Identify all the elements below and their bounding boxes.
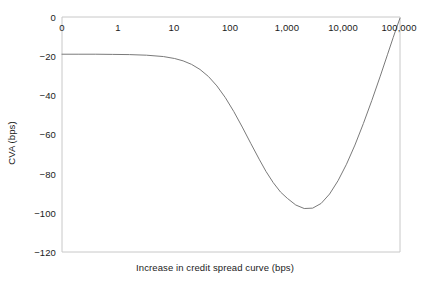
x-tick-label: 1 [115, 22, 120, 33]
x-tick-label: 1,000 [275, 22, 299, 33]
x-tick-label: 100 [222, 22, 238, 33]
y-axis-title: CVA (bps) [6, 108, 17, 178]
x-tick-label: 10,000 [328, 22, 358, 33]
y-tick-label: −100 [22, 208, 56, 219]
y-tick-label: −40 [22, 90, 56, 101]
plot-canvas [0, 0, 430, 283]
plot-frame [62, 17, 400, 252]
y-tick-label: −20 [22, 51, 56, 62]
x-axis-title: Increase in credit spread curve (bps) [0, 262, 430, 273]
x-tick-label: 10 [169, 22, 180, 33]
y-tick-label: −120 [22, 247, 56, 258]
x-tick-label: 100,000 [381, 22, 416, 33]
x-tick-label: 0 [59, 22, 64, 33]
y-tick-label: −80 [22, 169, 56, 180]
y-tick-label: −60 [22, 129, 56, 140]
cva-curve [62, 18, 400, 208]
y-tick-label: 0 [22, 12, 56, 23]
data-series-group [62, 18, 400, 208]
cva-credit-spread-chart: 01101001,00010,000100,000 0−20−40−60−80−… [0, 0, 430, 283]
